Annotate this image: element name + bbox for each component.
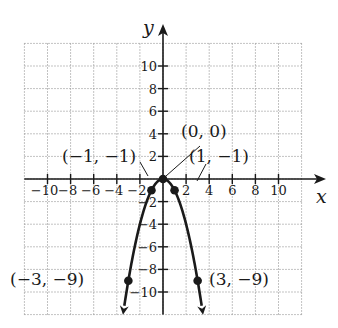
leader-line [140, 162, 148, 176]
y-tick-label: −8 [138, 262, 157, 277]
point-label: (1, −1) [189, 146, 249, 166]
x-tick-label: 2 [182, 183, 190, 198]
y-tick-label: 10 [140, 59, 157, 74]
x-tick-label: −8 [58, 183, 77, 198]
x-tick-label: 4 [205, 183, 213, 198]
x-tick-label: 8 [251, 183, 259, 198]
y-tick-label: −2 [138, 195, 157, 210]
y-tick-label: 2 [149, 149, 157, 164]
point-label: (−1, −1) [62, 146, 136, 166]
y-tick-label: 8 [149, 82, 157, 97]
x-tick-label: −4 [104, 183, 123, 198]
point-label: (0, 0) [181, 121, 227, 141]
point-label: (−3, −9) [10, 269, 84, 289]
plot-area: xy−10−8−6−4−2246810108642−2−4−6−8−10(−3,… [0, 0, 338, 328]
parabola-chart: xy−10−8−6−4−2246810108642−2−4−6−8−10(−3,… [0, 0, 338, 328]
data-point [124, 276, 133, 285]
data-point [193, 276, 202, 285]
point-label: (3, −9) [209, 269, 269, 289]
x-tick-label: −6 [81, 183, 100, 198]
y-tick-label: 6 [149, 104, 157, 119]
curve-arrow-icon [120, 305, 129, 315]
x-tick-label: 10 [270, 183, 287, 198]
y-tick-label: −10 [130, 285, 157, 300]
x-tick-label: −10 [31, 183, 58, 198]
y-tick-label: −4 [138, 217, 157, 232]
data-point [147, 186, 156, 195]
y-tick-label: −6 [138, 240, 157, 255]
curve-arrow-icon [197, 305, 206, 315]
data-point [170, 186, 179, 195]
x-tick-label: 6 [228, 183, 236, 198]
y-tick-label: 4 [149, 127, 157, 142]
y-axis-label: y [142, 16, 154, 38]
x-axis-label: x [316, 185, 327, 207]
labels: xy−10−8−6−4−2246810108642−2−4−6−8−10(−3,… [10, 16, 327, 300]
data-point [159, 175, 168, 184]
